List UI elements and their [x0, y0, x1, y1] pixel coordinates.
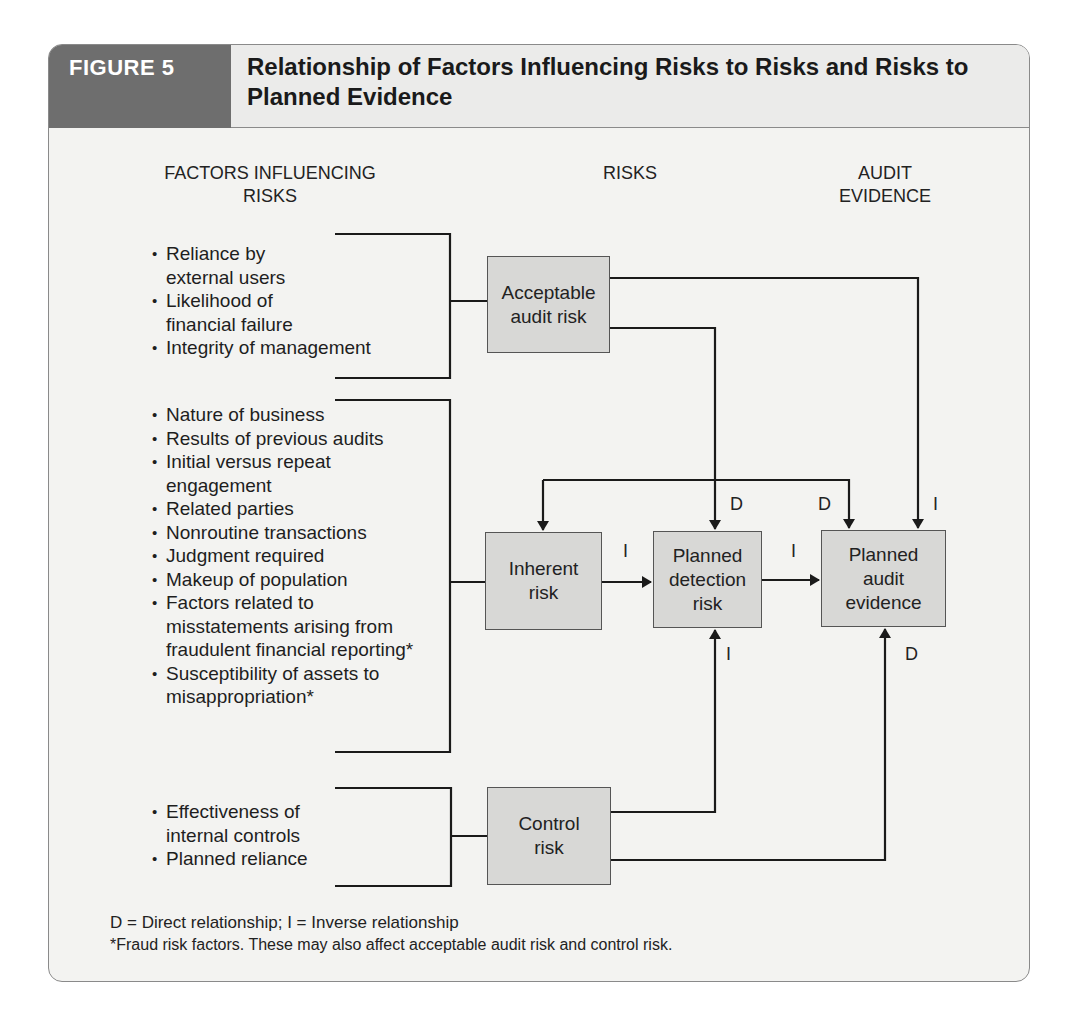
box-label: Planned audit evidence [836, 543, 931, 615]
relation-label-ir-pae: D [818, 494, 831, 515]
factor-list-control-risk: Effectiveness of internal controls Plann… [150, 800, 340, 871]
factor-item: Makeup of population [150, 568, 430, 592]
box-inherent-risk: Inherent risk [485, 532, 602, 630]
factor-item: Likelihood of financial failure [150, 289, 316, 336]
relation-label-pdr-pae: I [791, 541, 796, 562]
box-control-risk: Control risk [487, 787, 611, 885]
relation-label-aar-pdr: D [730, 494, 743, 515]
box-planned-audit-evidence: Planned audit evidence [821, 530, 946, 627]
legend-key: D = Direct relationship; I = Inverse rel… [110, 913, 459, 933]
box-label: Inherent risk [504, 557, 584, 605]
factor-list-acceptable-risk: Reliance by external users Likelihood of… [150, 242, 340, 360]
factor-item: Reliance by external users [150, 242, 296, 289]
factor-item: Integrity of management [150, 336, 406, 360]
factor-item: Judgment required [150, 544, 430, 568]
factor-list-inherent-risk: Nature of business Results of previous a… [150, 403, 430, 709]
box-label: Control risk [509, 812, 589, 860]
box-label: Acceptable audit risk [499, 281, 599, 329]
box-acceptable-audit-risk: Acceptable audit risk [487, 256, 610, 353]
factor-item: Nonroutine transactions [150, 521, 430, 545]
box-planned-detection-risk: Planned detection risk [653, 531, 762, 628]
factor-item: Effectiveness of internal controls [150, 800, 336, 847]
factor-item: Nature of business [150, 403, 430, 427]
relation-label-cr-pae: D [905, 644, 918, 665]
factor-item: Susceptibility of assets to misappropria… [150, 662, 416, 709]
relation-label-ir-pdr: I [623, 541, 628, 562]
factor-item: Planned reliance [150, 847, 340, 871]
factor-item: Results of previous audits [150, 427, 430, 451]
factor-item: Initial versus repeat engagement [150, 450, 356, 497]
box-label: Planned detection risk [660, 544, 755, 616]
relation-label-cr-pdr: I [726, 644, 731, 665]
factor-item: Factors related to misstatements arising… [150, 591, 431, 662]
factor-item: Related parties [150, 497, 430, 521]
relation-label-aar-pae: I [933, 494, 938, 515]
legend-footnote: *Fraud risk factors. These may also affe… [110, 935, 672, 955]
